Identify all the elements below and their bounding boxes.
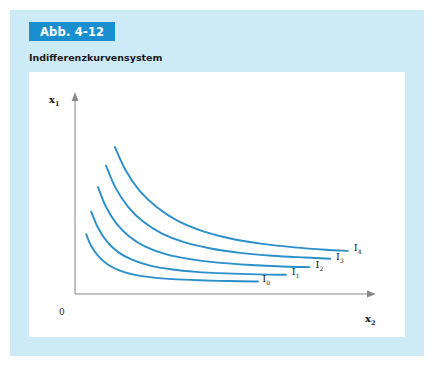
curve-label: I1 [292,266,300,279]
indifference-curve-chart: x1 x2 0 I0I1I2I3I4 [29,72,405,337]
curve-label: I3 [336,251,344,264]
y-axis-label: x1 [49,94,60,108]
origin-label: 0 [59,307,65,317]
y-axis-arrowhead [72,92,79,101]
x-axis-label: x2 [365,313,376,327]
axes-group [72,92,376,297]
indifference-curves-group [86,147,348,281]
indifference-curve [98,187,310,267]
curve-label: I4 [354,242,362,255]
figure-title: Indifferenzkurvensystem [29,52,162,63]
indifference-curve [115,147,348,251]
figure-number-badge: Abb. 4-12 [29,22,115,41]
figure-panel: Abb. 4-12 Indifferenzkurvensystem x1 x2 … [10,10,424,356]
plot-card: x1 x2 0 I0I1I2I3I4 [29,72,405,337]
curve-label: I2 [315,259,323,272]
figure-number-label: Abb. 4-12 [40,25,104,39]
x-axis-arrowhead [367,291,376,298]
